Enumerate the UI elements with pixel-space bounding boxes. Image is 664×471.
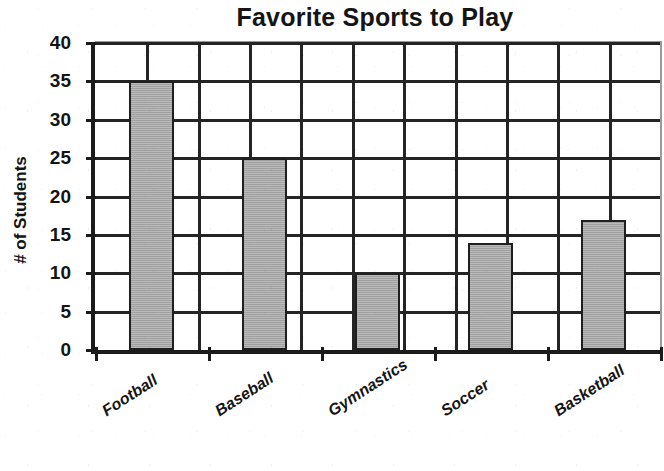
y-axis-tick-label: 5 [25,301,71,323]
x-axis-label-soccer: Soccer [438,376,493,420]
plot-area: 4035302520151050 FootballBaseballGymnast… [91,43,660,354]
x-axis-tick-mark [95,347,98,361]
gridline-horizontal [95,119,660,122]
y-axis-tick-label: 10 [25,262,71,284]
gridline-vertical [557,43,560,350]
x-axis-tick-mark [547,347,550,361]
x-axis-label-baseball: Baseball [212,369,277,420]
x-axis-label-basketball: Basketball [551,361,628,420]
x-axis-tick-mark [434,347,437,361]
x-axis-tick-mark [208,347,211,361]
gridline-horizontal [95,157,660,160]
y-axis-tick-label: 20 [25,186,71,208]
y-axis-tick-mark [86,272,96,275]
plot-right-border [660,41,662,350]
y-axis-tick-label: 35 [25,70,71,92]
y-axis-tick-label: 40 [25,32,71,54]
y-axis-tick-mark [86,196,96,199]
y-axis-tick-mark [86,42,96,45]
y-axis-tick-mark [86,80,96,83]
x-axis-tick-mark [660,347,663,361]
bar-football [129,81,174,350]
gridline-vertical [198,43,201,350]
bar-soccer [468,243,513,350]
gridline-vertical [403,43,406,350]
bar-baseball [242,158,287,350]
x-axis-label-gymnastics: Gymnastics [325,356,411,421]
y-axis-tick-label: 15 [25,224,71,246]
x-axis-tick-mark [321,347,324,361]
y-axis-tick-mark [86,157,96,160]
gridline-horizontal [95,42,660,45]
y-axis-tick-mark [86,119,96,122]
gridline-vertical [300,43,303,350]
bar-gymnastics [355,273,400,350]
x-axis-label-football: Football [99,371,161,420]
gridline-horizontal [95,234,660,237]
y-axis-tick-mark [86,311,96,314]
bar-chart-figure: Favorite Sports to Play # of Students 40… [0,0,664,471]
y-axis-tick-label: 30 [25,109,71,131]
bar-basketball [581,220,626,350]
gridline-horizontal [95,80,660,83]
y-axis-tick-mark [86,234,96,237]
gridline-horizontal [95,196,660,199]
chart-title: Favorite Sports to Play [90,0,660,36]
y-axis-tick-label: 0 [25,339,71,361]
gridline-vertical [455,43,458,350]
y-axis-tick-label: 25 [25,147,71,169]
